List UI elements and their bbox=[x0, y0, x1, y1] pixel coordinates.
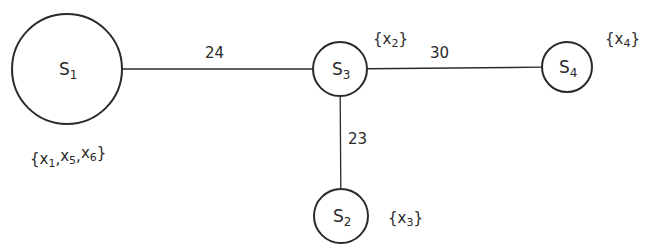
edge-s3-s4 bbox=[367, 67, 542, 69]
edge-s3-s2 bbox=[340, 96, 341, 189]
nodes-layer: S1S3S4S2 bbox=[12, 14, 592, 243]
graph-diagram: S1S3S4S2 243023{x1,x5,x6}{x2}{x4}{x3} bbox=[0, 0, 650, 251]
set-label-s1: {x1,x5,x6} bbox=[30, 144, 106, 170]
edge-weight-label: 30 bbox=[430, 44, 449, 62]
set-label-s4: {x4} bbox=[605, 30, 640, 50]
edge-weight-label: 23 bbox=[348, 130, 367, 148]
edge-weight-label: 24 bbox=[205, 44, 224, 62]
set-label-s2: {x3} bbox=[388, 209, 423, 229]
set-label-s3: {x2} bbox=[373, 30, 408, 50]
